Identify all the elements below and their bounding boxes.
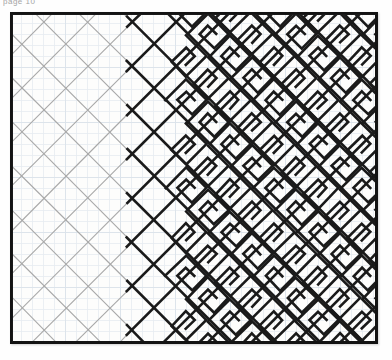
zone-bold-lattice — [127, 12, 378, 344]
pattern-drawing — [10, 12, 378, 344]
drawing-plate — [10, 12, 378, 344]
page-label: page 10 — [3, 0, 35, 6]
page-canvas: page 10 — [0, 0, 392, 360]
zone-light-lattice — [10, 12, 130, 344]
